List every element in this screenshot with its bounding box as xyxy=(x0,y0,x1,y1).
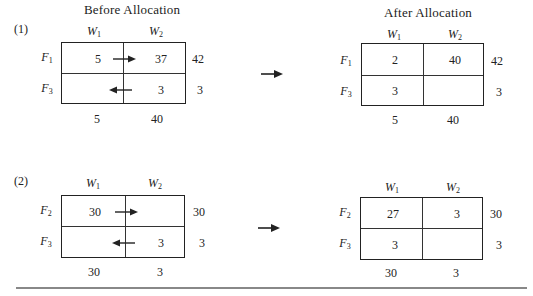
row-divider xyxy=(62,226,184,227)
transition-arrow-icon xyxy=(261,70,283,78)
demand-w2: 3 xyxy=(157,265,163,280)
supply-f3: 3 xyxy=(496,238,502,253)
transition-arrow-icon xyxy=(258,224,280,232)
column-header-w2: W2 xyxy=(148,176,162,191)
column-header-w1: W1 xyxy=(387,27,401,42)
row-header-f3: F3 xyxy=(41,81,52,96)
after-allocation-table-1: 2 40 3 xyxy=(361,43,484,106)
cell-f1-w2: 40 xyxy=(449,53,461,68)
cell-f3-w1: 3 xyxy=(392,238,398,253)
column-header-w2: W2 xyxy=(446,180,460,195)
cell-f1-w1: 5 xyxy=(95,52,101,67)
cell-f1-w1: 2 xyxy=(392,53,398,68)
supply-f2: 30 xyxy=(193,205,205,220)
before-allocation-table-1: 5 37 3 xyxy=(61,42,186,104)
cell-f2-w2: 3 xyxy=(454,207,460,222)
after-allocation-heading: After Allocation xyxy=(384,5,472,21)
column-header-w2: W2 xyxy=(448,27,462,42)
supply-f3: 3 xyxy=(496,85,502,100)
right-arrow-icon xyxy=(113,55,137,63)
before-allocation-table-2: 30 3 xyxy=(61,195,185,258)
after-allocation-table-2: 27 3 3 xyxy=(360,197,483,260)
row-header-f1: F1 xyxy=(41,50,52,65)
column-header-w1: W1 xyxy=(385,180,399,195)
problem-1-label: (1) xyxy=(14,22,28,37)
row-header-f2: F2 xyxy=(339,205,350,220)
row-divider xyxy=(361,228,482,229)
demand-w2: 40 xyxy=(151,112,163,127)
left-arrow-icon xyxy=(109,86,133,94)
row-divider xyxy=(62,73,185,74)
right-arrow-icon xyxy=(115,208,139,216)
left-arrow-icon xyxy=(112,239,136,247)
supply-f3: 3 xyxy=(197,83,203,98)
bottom-rule-divider xyxy=(16,287,527,289)
cell-f2-w1: 30 xyxy=(89,205,101,220)
row-header-f3: F3 xyxy=(339,236,350,251)
row-header-f2: F2 xyxy=(40,203,51,218)
cell-f2-w1: 27 xyxy=(387,207,399,222)
demand-w1: 5 xyxy=(392,113,398,128)
row-divider xyxy=(362,75,483,76)
demand-w1: 30 xyxy=(88,265,100,280)
problem-2-label: (2) xyxy=(14,174,28,189)
supply-f1: 42 xyxy=(491,54,503,69)
row-header-f1: F1 xyxy=(340,53,351,68)
cell-f3-w2: 3 xyxy=(158,236,164,251)
cell-f3-w1: 3 xyxy=(392,84,398,99)
demand-w1: 30 xyxy=(385,266,397,281)
row-header-f3: F3 xyxy=(40,234,51,249)
demand-w2: 40 xyxy=(447,113,459,128)
cell-f1-w2: 37 xyxy=(155,52,167,67)
supply-f2: 30 xyxy=(490,207,502,222)
supply-f3: 3 xyxy=(199,236,205,251)
row-header-f3: F3 xyxy=(340,84,351,99)
before-allocation-heading: Before Allocation xyxy=(84,2,180,18)
column-header-w1: W1 xyxy=(87,24,101,39)
demand-w2: 3 xyxy=(453,266,459,281)
supply-f1: 42 xyxy=(192,52,204,67)
column-header-w2: W2 xyxy=(149,24,163,39)
column-header-w1: W1 xyxy=(86,176,100,191)
cell-f3-w2: 3 xyxy=(158,83,164,98)
demand-w1: 5 xyxy=(94,112,100,127)
